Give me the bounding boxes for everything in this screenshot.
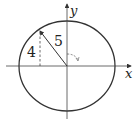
coordinate-diagram: y x 4 5 — [0, 0, 139, 124]
angle-arc — [67, 54, 78, 60]
hypotenuse-label: 5 — [54, 33, 63, 49]
vertical-leg-label: 4 — [27, 44, 36, 60]
y-axis-label: y — [69, 3, 78, 18]
x-axis-label: x — [125, 66, 133, 81]
